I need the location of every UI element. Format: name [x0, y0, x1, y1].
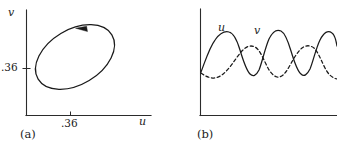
panel-a-limit-cycle-orbit	[24, 11, 126, 102]
panel-b-curve-v	[201, 46, 337, 79]
panel-a-x-axis-label: u	[139, 116, 146, 127]
panel-b-plot-area	[167, 0, 337, 148]
panel-a-y-axis-label: v	[8, 7, 14, 18]
panel-b-caption: (b)	[197, 129, 213, 141]
figure-container: v .36 .36 u (a) u v (b)	[0, 0, 337, 148]
panel-a-y-tick-label: .36	[1, 62, 18, 73]
panel-a-limit-cycle-group	[24, 11, 126, 102]
panel-a-caption: (a)	[20, 129, 36, 141]
panel-b-time-series: u v (b)	[167, 0, 337, 148]
panel-a-x-tick-label: .36	[61, 118, 78, 129]
panel-b-series-v-label: v	[254, 25, 260, 36]
panel-b-series-u-label: u	[218, 22, 225, 33]
panel-a-direction-arrow	[76, 26, 88, 31]
panel-a-phase-plane: v .36 .36 u (a)	[0, 0, 167, 148]
